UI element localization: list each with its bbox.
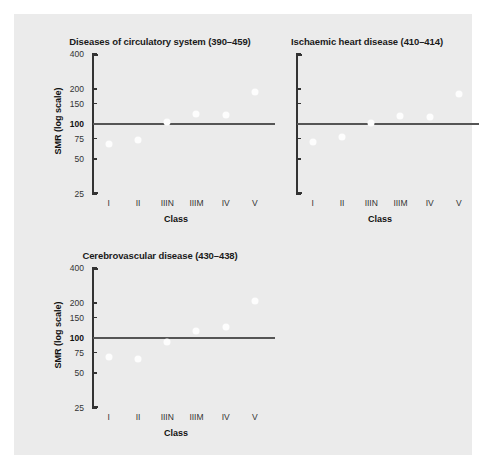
x-axis-tick-label: IIIM	[393, 198, 407, 208]
data-point	[397, 113, 404, 120]
x-axis-tick-label: V	[252, 198, 258, 208]
data-point	[164, 339, 171, 346]
y-axis-title: SMR (log scale)	[53, 87, 63, 154]
y-axis-tick-label: 200	[70, 298, 84, 308]
plot-area: 400200150100755025IIIIIINIIIMIVV	[92, 54, 260, 194]
y-axis-tick	[92, 53, 97, 54]
panel-ischaemic-heart-disease: Ischaemic heart disease (410–414) IIIIII…	[272, 36, 472, 232]
data-point	[251, 88, 258, 95]
data-point	[222, 111, 229, 118]
x-axis-tick-label: IV	[222, 412, 230, 422]
panel-title: Ischaemic heart disease (410–414)	[272, 36, 462, 47]
x-axis-tick-label: IIIN	[365, 198, 378, 208]
x-axis-title: Class	[164, 428, 188, 438]
y-axis-tick	[92, 372, 97, 373]
y-axis-tick-label: 50	[75, 154, 84, 164]
y-axis-tick-label: 25	[75, 403, 84, 413]
y-axis-tick-label: 150	[70, 99, 84, 109]
y-axis-tick-label: 100	[70, 333, 84, 343]
y-axis-tick	[92, 267, 97, 268]
plot-area: IIIIIINIIIMIVV	[296, 54, 464, 194]
y-axis-tick	[92, 302, 97, 303]
x-axis-tick-label: IIIM	[189, 412, 203, 422]
y-axis-tick	[296, 158, 301, 159]
data-point	[193, 327, 200, 334]
data-point	[426, 113, 433, 120]
y-axis-tick	[92, 103, 97, 104]
data-point	[105, 141, 112, 148]
y-axis-tick	[92, 407, 97, 408]
x-axis-tick-label: IIIM	[189, 198, 203, 208]
x-axis-title: Class	[368, 214, 392, 224]
data-point	[309, 139, 316, 146]
y-axis-title: SMR (log scale)	[53, 301, 63, 368]
data-point	[368, 119, 375, 126]
y-axis-tick	[92, 193, 97, 194]
reference-line-100	[93, 123, 275, 125]
data-point	[251, 298, 258, 305]
reference-line-100	[93, 337, 275, 339]
x-axis-tick-label: II	[136, 198, 141, 208]
x-axis-tick-label: IIIN	[161, 412, 174, 422]
plot-area: 400200150100755025IIIIIINIIIMIVV	[92, 268, 260, 408]
y-axis-tick-label: 75	[75, 134, 84, 144]
y-axis-tick	[296, 103, 301, 104]
y-axis-tick	[296, 53, 301, 54]
x-axis-tick-label: II	[340, 198, 345, 208]
data-point	[135, 136, 142, 143]
y-axis-tick-label: 400	[70, 263, 84, 273]
x-axis-tick-label: II	[136, 412, 141, 422]
x-axis-tick-label: IV	[426, 198, 434, 208]
panel-title: Diseases of circulatory system (390–459)	[54, 36, 266, 47]
y-axis-tick-label: 400	[70, 49, 84, 59]
data-point	[164, 119, 171, 126]
y-axis-tick-label: 50	[75, 368, 84, 378]
y-axis-tick	[92, 158, 97, 159]
y-axis-tick-label: 200	[70, 84, 84, 94]
y-axis-tick	[296, 193, 301, 194]
data-point	[193, 111, 200, 118]
y-axis-tick	[296, 138, 301, 139]
data-point	[339, 133, 346, 140]
panel-title: Cerebrovascular disease (430–438)	[54, 250, 266, 261]
panel-cerebrovascular-disease: Cerebrovascular disease (430–438) SMR (l…	[54, 250, 266, 446]
reference-line-100	[297, 123, 479, 125]
x-axis-tick-label: I	[312, 198, 314, 208]
x-axis-tick-label: V	[252, 412, 258, 422]
data-point	[455, 90, 462, 97]
chart-canvas: Diseases of circulatory system (390–459)…	[14, 14, 472, 455]
y-axis-tick-label: 150	[70, 313, 84, 323]
data-point	[135, 355, 142, 362]
y-axis-tick	[92, 352, 97, 353]
x-axis-tick-label: IIIN	[161, 198, 174, 208]
y-axis-tick-label: 25	[75, 189, 84, 199]
y-axis-tick	[296, 88, 301, 89]
panel-circulatory-system: Diseases of circulatory system (390–459)…	[54, 36, 266, 232]
y-axis-tick	[92, 317, 97, 318]
x-axis-tick-label: V	[456, 198, 462, 208]
y-axis-tick-label: 100	[70, 119, 84, 129]
y-axis-tick	[92, 88, 97, 89]
x-axis-title: Class	[164, 214, 188, 224]
y-axis-tick-label: 75	[75, 348, 84, 358]
x-axis-tick-label: IV	[222, 198, 230, 208]
x-axis-tick-label: I	[108, 198, 110, 208]
data-point	[105, 353, 112, 360]
y-axis-tick	[92, 138, 97, 139]
data-point	[222, 324, 229, 331]
x-axis-tick-label: I	[108, 412, 110, 422]
